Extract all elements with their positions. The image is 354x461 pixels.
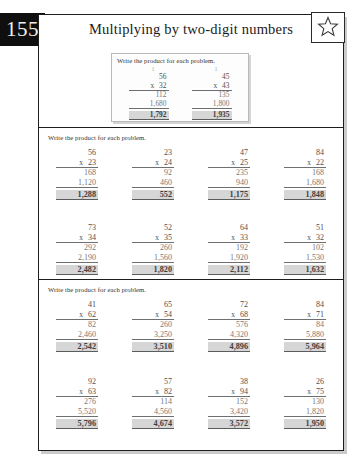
answer-value[interactable]: 552 [132, 190, 174, 201]
partial-product: 260 [132, 243, 174, 253]
bottom-factor: x62 [56, 310, 98, 321]
multiply-operator: x [231, 310, 235, 319]
carry-digit [132, 293, 174, 300]
answer-value[interactable]: 3,510 [132, 342, 174, 353]
partial-product: 576 [208, 320, 250, 330]
problem-cell: 57 x82 114 4,560 4,674 [132, 370, 174, 429]
top-factor: 92 [56, 377, 98, 387]
partial-product: 4,320 [208, 330, 250, 341]
bottom-factor: x24 [132, 158, 174, 169]
partial-product: 82 [56, 320, 98, 330]
carry-digit [56, 370, 98, 377]
partial-product: 2,190 [56, 253, 98, 264]
partial-product: 4,560 [132, 407, 174, 418]
partial-product: 3,420 [208, 407, 250, 418]
problem-cell: 47 x25 235 940 1,175 [208, 141, 250, 200]
answer-value: 1,792 [129, 111, 169, 121]
bottom-factor-value: 63 [88, 387, 96, 396]
problem-cell: 56 x23 168 1,120 1,288 [56, 141, 98, 200]
partial-product: 114 [132, 397, 174, 407]
carry-digit [132, 141, 174, 148]
problem-cell: 65 x54 260 3,250 3,510 [132, 293, 174, 352]
bottom-factor-value: 34 [88, 233, 96, 242]
bottom-factor: x63 [56, 387, 98, 398]
carry-digit [56, 293, 98, 300]
problem-cell: 73 x34 292 2,190 2,482 [56, 216, 98, 275]
answer-value[interactable]: 1,848 [284, 190, 326, 201]
bottom-factor-value: 35 [164, 233, 172, 242]
bottom-factor: x34 [56, 233, 98, 244]
partial-product: 84 [284, 320, 326, 330]
bottom-factor: x75 [284, 387, 326, 398]
problem-cell: 23 x24 92 460 552 [132, 141, 174, 200]
answer-value[interactable]: 5,964 [284, 342, 326, 353]
multiply-operator: x [79, 233, 83, 242]
partial-product: 192 [208, 243, 250, 253]
top-factor: 57 [132, 377, 174, 387]
answer-value[interactable]: 1,820 [132, 265, 174, 276]
bottom-factor: x71 [284, 310, 326, 321]
top-factor: 52 [132, 223, 174, 233]
partial-product: 260 [132, 320, 174, 330]
carry-digit [56, 216, 98, 223]
answer-value[interactable]: 1,950 [284, 419, 326, 430]
answer-value[interactable]: 1,175 [208, 190, 250, 201]
problem-row: 92 x63 276 5,520 5,796 57 x82 114 4,560 … [48, 370, 334, 429]
partial-product: 168 [56, 168, 98, 178]
example-instruction: Write the product for each problem. [117, 57, 243, 64]
bottom-factor-value: 32 [159, 81, 166, 90]
top-factor: 73 [56, 223, 98, 233]
multiply-operator: x [79, 158, 83, 167]
bottom-factor-value: 33 [240, 233, 248, 242]
top-factor: 23 [132, 148, 174, 158]
top-factor: 51 [284, 223, 326, 233]
answer-value[interactable]: 5,796 [56, 419, 98, 430]
multiply-operator: x [231, 233, 235, 242]
answer-value[interactable]: 2,482 [56, 265, 98, 276]
partial-product: 276 [56, 397, 98, 407]
answer-value[interactable]: 2,542 [56, 342, 98, 353]
star-badge-box[interactable] [311, 12, 345, 43]
problem-cell: 26 x75 130 1,820 1,950 [284, 370, 326, 429]
top-factor: 56 [56, 148, 98, 158]
top-factor: 64 [208, 223, 250, 233]
partial-product: 2,460 [56, 330, 98, 341]
partial-product: 168 [284, 168, 326, 178]
page-title: Multiplying by two-digit numbers [39, 21, 343, 38]
top-factor: 38 [208, 377, 250, 387]
problem-cell: 84 x22 168 1,680 1,848 [284, 141, 326, 200]
bottom-factor: x94 [208, 387, 250, 398]
partial-product: 92 [132, 168, 174, 178]
problem-cell: 64 x33 192 1,920 2,112 [208, 216, 250, 275]
answer-value[interactable]: 4,896 [208, 342, 250, 353]
multiply-operator: x [150, 81, 154, 90]
multiply-operator: x [79, 310, 83, 319]
answer-value[interactable]: 4,674 [132, 419, 174, 430]
problem-cell: 84 x71 84 5,880 5,964 [284, 293, 326, 352]
partial-product: 1,530 [284, 253, 326, 264]
top-factor: 72 [208, 300, 250, 310]
multiply-operator: x [79, 387, 83, 396]
multiply-operator: x [155, 233, 159, 242]
carry-digit [208, 370, 250, 377]
partial-product: 1,800 [192, 100, 232, 110]
multiply-operator: x [231, 158, 235, 167]
answer-value[interactable]: 3,572 [208, 419, 250, 430]
multiply-operator: x [155, 158, 159, 167]
answer-value[interactable]: 2,112 [208, 265, 250, 276]
bottom-factor-value: 54 [164, 310, 172, 319]
partial-product: 1,680 [284, 178, 326, 189]
answer-value[interactable]: 1,632 [284, 265, 326, 276]
example-problem-list: 1 56 x32 112 1,680 1,792 1 45 x43 135 1,… [117, 66, 243, 120]
answer-value[interactable]: 1,288 [56, 190, 98, 201]
partial-product: 1,560 [132, 253, 174, 264]
carry-digit [284, 216, 326, 223]
top-factor: 47 [208, 148, 250, 158]
bottom-factor: x22 [284, 158, 326, 169]
bottom-factor-value: 25 [240, 158, 248, 167]
carry-digit [208, 293, 250, 300]
section-instruction: Write the product for each problem. [48, 134, 334, 141]
partial-product: 102 [284, 243, 326, 253]
multiply-operator: x [307, 233, 311, 242]
bottom-factor: x33 [208, 233, 250, 244]
